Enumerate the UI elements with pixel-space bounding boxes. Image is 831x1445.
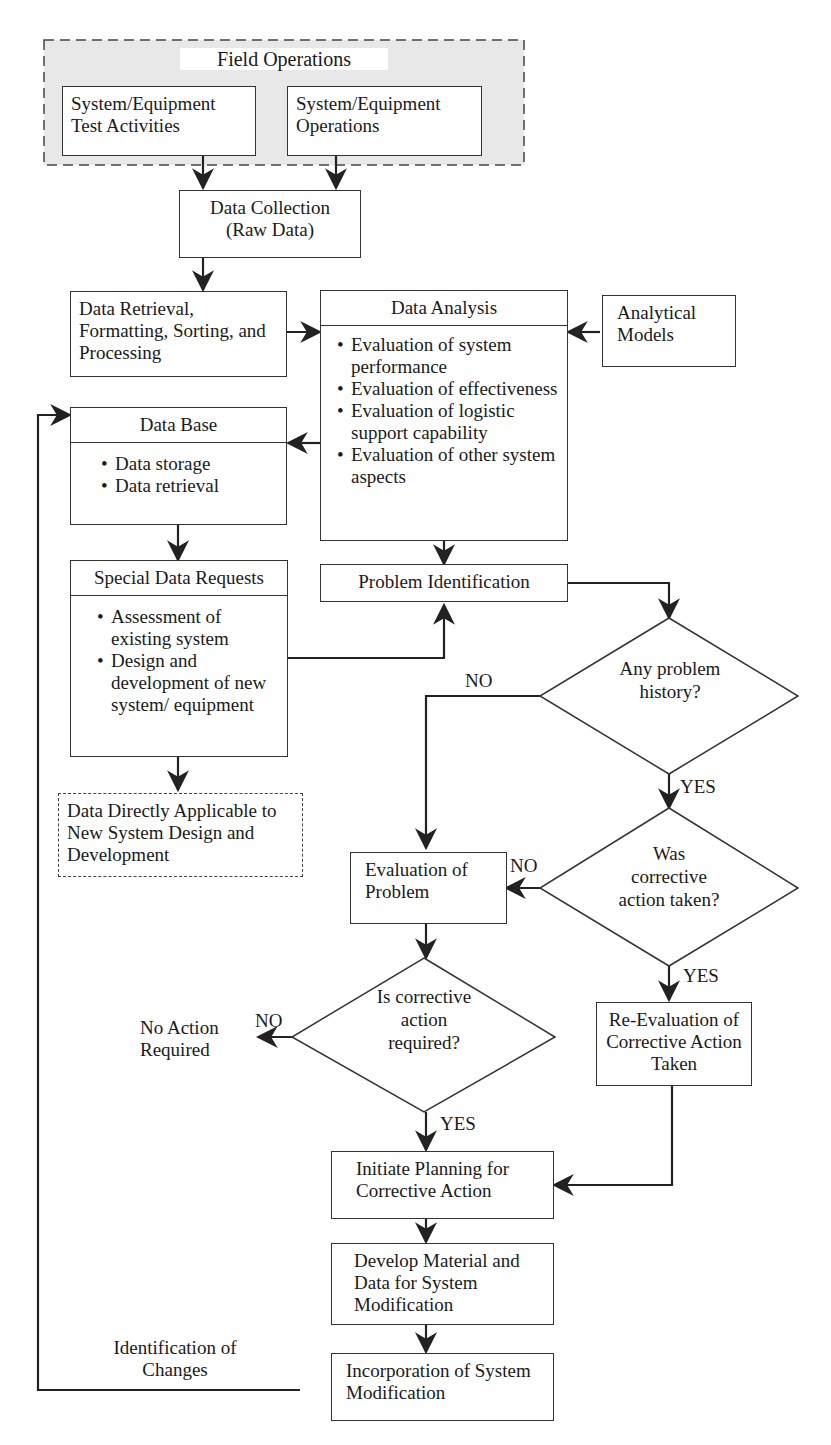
re-evaluation-box: Re-Evaluation of Corrective Action Taken bbox=[596, 1002, 752, 1086]
no-action-label: No Action Required bbox=[140, 1017, 240, 1061]
initiate-planning-box: Initiate Planning for Corrective Action bbox=[331, 1151, 554, 1219]
special-requests-title: Special Data Requests bbox=[71, 561, 287, 596]
request-item: Design and development of new system/ eq… bbox=[111, 650, 281, 716]
no-label: NO bbox=[255, 1010, 282, 1032]
identification-changes-label: Identification of Changes bbox=[110, 1337, 240, 1381]
yes-label: YES bbox=[683, 965, 719, 987]
analysis-item: Evaluation of effectiveness bbox=[351, 378, 561, 400]
incorporation-box: Incorporation of System Modification bbox=[331, 1353, 554, 1421]
database-item: Data retrieval bbox=[115, 475, 280, 497]
analytical-models-box: Analytical Models bbox=[602, 295, 736, 367]
data-analysis-title: Data Analysis bbox=[321, 291, 567, 326]
data-collection-box: Data Collection (Raw Data) bbox=[179, 190, 361, 258]
decision-required-text: Is corrective action required? bbox=[364, 985, 484, 1054]
no-label: NO bbox=[465, 670, 492, 692]
analysis-item: Evaluation of logistic support capabilit… bbox=[351, 400, 561, 444]
develop-material-box: Develop Material and Data for System Mod… bbox=[331, 1243, 554, 1325]
data-retrieval-box: Data Retrieval, Formatting, Sorting, and… bbox=[70, 291, 287, 377]
no-label: NO bbox=[510, 855, 537, 877]
data-base-box: Data Base Data storage Data retrieval bbox=[70, 407, 287, 525]
analysis-item: Evaluation of system performance bbox=[351, 334, 561, 378]
special-requests-box: Special Data Requests Assessment of exis… bbox=[70, 560, 288, 757]
database-item: Data storage bbox=[115, 453, 280, 475]
problem-identification-box: Problem Identification bbox=[320, 564, 568, 602]
data-analysis-box: Data Analysis Evaluation of system perfo… bbox=[320, 290, 568, 541]
data-base-title: Data Base bbox=[71, 408, 286, 443]
data-applicable-box: Data Directly Applicable to New System D… bbox=[58, 793, 303, 877]
field-operations-title: Field Operations bbox=[180, 48, 388, 70]
decision-history-text: Any problem history? bbox=[615, 657, 725, 703]
analysis-item: Evaluation of other system aspects bbox=[351, 444, 561, 488]
operations-box: System/Equipment Operations bbox=[287, 86, 482, 156]
yes-label: YES bbox=[680, 776, 716, 798]
test-activities-box: System/Equipment Test Activities bbox=[62, 86, 256, 156]
yes-label: YES bbox=[440, 1113, 476, 1135]
evaluation-problem-box: Evaluation of Problem bbox=[350, 852, 507, 924]
decision-taken-text: Was corrective action taken? bbox=[614, 842, 724, 911]
request-item: Assessment of existing system bbox=[111, 606, 281, 650]
